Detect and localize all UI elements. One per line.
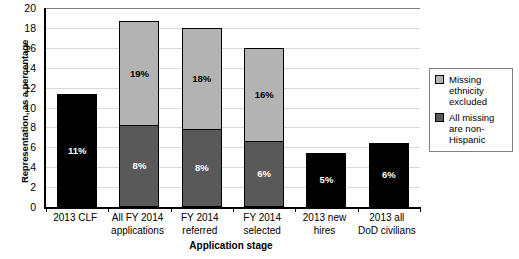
bar-stack[interactable]: 18%8% (182, 28, 222, 207)
y-tick-label-14: 14 (0, 63, 36, 73)
bar-segment-light[interactable]: 18% (182, 28, 222, 130)
x-category-label: All FY 2014applications (106, 212, 168, 237)
x-category-label: FY 2014referred (169, 212, 231, 237)
bar-segment-dark[interactable]: 6% (244, 141, 284, 207)
x-category-label-line: All FY 2014 (106, 212, 168, 225)
y-tick-label-6: 6 (0, 142, 36, 152)
legend-label-line: Hispanic (449, 134, 494, 145)
x-category-label: 2013 allDoD civilians (356, 212, 418, 237)
legend-swatch (435, 113, 444, 122)
bar-value-label: 8% (133, 161, 147, 171)
bar-segment-black[interactable]: 5% (306, 153, 346, 207)
y-tick-label-0: 0 (0, 202, 36, 212)
bar-stack[interactable]: 19%8% (119, 21, 159, 207)
bar-value-label: 16% (255, 90, 274, 100)
bar-value-label: 5% (320, 175, 334, 185)
legend-label-line: excluded (449, 96, 487, 107)
bar-value-label: 18% (192, 74, 211, 84)
legend-label-line: ethnicity (449, 85, 487, 96)
legend-label-line: Missing (449, 74, 487, 85)
x-category-label-line: referred (169, 225, 231, 238)
bar-segment-light[interactable]: 16% (244, 48, 284, 143)
bar-series-group: 11%19%8%18%8%16%6%5%6% (46, 8, 420, 207)
y-tick-label-4: 4 (0, 162, 36, 172)
bar-slot: 19%8% (108, 8, 170, 207)
x-category-label: 2013 CLF (44, 212, 106, 225)
x-category-label-line: FY 2014 (231, 212, 293, 225)
y-tick-label-2: 2 (0, 182, 36, 192)
bar-segment-black[interactable]: 11% (57, 94, 97, 207)
bar-stack[interactable]: 11% (57, 94, 97, 207)
y-tick-label-16: 16 (0, 43, 36, 53)
bar-stack[interactable]: 16%6% (244, 48, 284, 207)
x-category-label-line: 2013 all (356, 212, 418, 225)
bar-slot: 18%8% (171, 8, 233, 207)
y-tick-label-10: 10 (0, 103, 36, 113)
x-axis-tick (420, 207, 421, 212)
legend-item[interactable]: All missingare non-Hispanic (435, 112, 508, 145)
y-tick-label-18: 18 (0, 23, 36, 33)
bar-slot: 16%6% (233, 8, 295, 207)
bar-slot: 11% (46, 8, 108, 207)
bar-segment-dark[interactable]: 8% (182, 129, 222, 207)
x-category-label-line: FY 2014 (169, 212, 231, 225)
legend-label: Missingethnicityexcluded (449, 74, 487, 107)
bar-segment-black[interactable]: 6% (369, 143, 409, 207)
legend-item[interactable]: Missingethnicityexcluded (435, 74, 508, 107)
x-category-label-line: 2013 new (293, 212, 355, 225)
legend-label: All missingare non-Hispanic (449, 112, 494, 145)
bar-value-label: 11% (68, 146, 87, 156)
bar-chart: Representation, as a percentage 02468101… (0, 0, 519, 259)
y-axis-tick-labels: 02468101214161820 (0, 0, 42, 215)
bar-value-label: 19% (130, 69, 149, 79)
legend-label-line: All missing (449, 112, 494, 123)
legend: MissingethnicityexcludedAll missingare n… (429, 68, 513, 152)
bar-stack[interactable]: 6% (369, 143, 409, 207)
x-axis-title: Application stage (44, 240, 418, 251)
bar-stack[interactable]: 5% (306, 153, 346, 207)
bar-slot: 5% (295, 8, 357, 207)
bar-value-label: 8% (195, 163, 209, 173)
bar-segment-light[interactable]: 19% (119, 21, 159, 126)
bar-slot: 6% (358, 8, 420, 207)
bar-value-label: 6% (382, 170, 396, 180)
x-category-label: FY 2014selected (231, 212, 293, 237)
x-category-label-line: DoD civilians (356, 225, 418, 238)
bar-segment-dark[interactable]: 8% (119, 125, 159, 207)
x-category-label-line: 2013 CLF (44, 212, 106, 225)
bar-value-label: 6% (257, 169, 271, 179)
y-tick-label-12: 12 (0, 83, 36, 93)
x-category-label: 2013 newhires (293, 212, 355, 237)
plot-area: 11%19%8%18%8%16%6%5%6% (44, 8, 420, 209)
x-category-label-line: applications (106, 225, 168, 238)
x-category-label-line: selected (231, 225, 293, 238)
y-tick-label-8: 8 (0, 122, 36, 132)
legend-swatch (435, 75, 444, 84)
x-category-label-line: hires (293, 225, 355, 238)
y-tick-label-20: 20 (0, 3, 36, 13)
legend-label-line: are non- (449, 123, 494, 134)
